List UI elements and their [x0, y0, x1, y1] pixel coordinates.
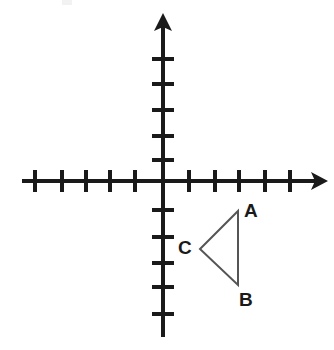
vertex-label-b: B — [239, 290, 253, 309]
vertex-label-a: A — [244, 201, 258, 220]
coordinate-plane-figure: A B C — [0, 0, 334, 350]
triangle-abc-shape — [200, 211, 238, 285]
y-axis-group — [152, 13, 174, 337]
axes-and-triangle-svg — [0, 0, 334, 350]
vertex-label-c: C — [178, 238, 192, 257]
triangle-abc-group — [200, 211, 238, 285]
x-axis-group — [22, 170, 328, 192]
